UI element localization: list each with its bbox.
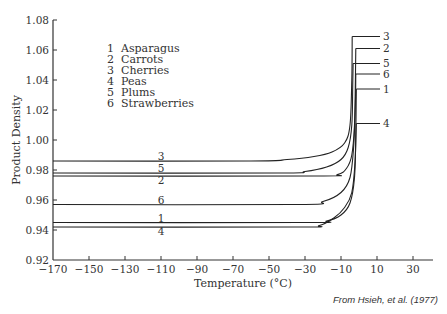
y-tick-label: 1.06 <box>26 44 50 56</box>
curve-end-label-6: 6 <box>383 68 390 80</box>
axes: −170−150−130−110−90−70−50−30−1010300.920… <box>26 14 433 276</box>
x-tick-label: −90 <box>186 263 208 275</box>
legend-item-strawberries: 6 Strawberries <box>107 97 194 110</box>
y-tick-label: 0.96 <box>26 194 50 206</box>
x-tick-label: −130 <box>111 263 140 275</box>
y-tick-label: 1.04 <box>26 74 50 86</box>
x-tick-label: −150 <box>75 263 104 275</box>
curve-end-label-1: 1 <box>383 83 390 95</box>
legend: 1 Asparagus 2 Carrots 3 Cherries 4 Peas … <box>107 42 194 110</box>
curve-label-5: 5 <box>158 162 165 174</box>
curve-peas <box>53 124 356 228</box>
x-tick-label: 10 <box>370 263 383 275</box>
y-tick-label: 0.94 <box>26 224 50 236</box>
x-tick-label: −110 <box>147 263 176 275</box>
y-tick-label: 0.98 <box>26 164 49 176</box>
curve-end-label-2: 2 <box>383 42 390 54</box>
curve-label-2: 2 <box>158 174 165 186</box>
y-tick-label: 1.02 <box>26 104 49 116</box>
curve-end-label-3: 3 <box>383 30 390 42</box>
x-axis-title: Temperature (°C) <box>194 277 292 290</box>
y-tick-label: 1.08 <box>26 14 49 26</box>
curves <box>53 37 356 228</box>
curve-label-1: 1 <box>158 212 165 224</box>
curve-cherries <box>53 37 352 162</box>
curve-label-6: 6 <box>158 194 165 206</box>
density-chart: −170−150−130−110−90−70−50−30−1010300.920… <box>0 0 447 314</box>
y-axis-title: Product Density <box>10 94 23 184</box>
curve-strawberries <box>53 74 356 205</box>
x-tick-label: −50 <box>258 263 280 275</box>
curve-asparagus <box>53 89 356 223</box>
x-tick-label: −10 <box>330 263 352 275</box>
curve-label-4: 4 <box>158 225 165 237</box>
y-tick-label: 1.00 <box>26 134 49 146</box>
x-tick-label: −70 <box>222 263 244 275</box>
curve-end-label-4: 4 <box>383 117 390 129</box>
curve-label-3: 3 <box>158 150 165 162</box>
curve-plums <box>53 64 353 174</box>
y-tick-label: 0.92 <box>26 254 49 266</box>
source-citation: From Hsieh, et al. (1977) <box>333 294 438 305</box>
x-tick-label: 30 <box>406 263 419 275</box>
x-tick-label: −30 <box>294 263 316 275</box>
